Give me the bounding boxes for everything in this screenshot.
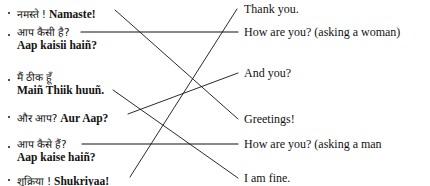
hindi-phrase-body: आप कैसी है?Aap kaisii haiñ? <box>8 26 97 53</box>
english-meaning-item-thank-you[interactable]: Thank you. <box>244 3 299 16</box>
devanagari-text: शुक्रिया ! <box>17 175 51 186</box>
english-meaning-item-and-you[interactable]: And you? <box>244 67 291 80</box>
romanized-text: Namaste! <box>49 8 96 20</box>
romanized-text: Aap kaise haiñ? <box>17 151 96 165</box>
devanagari-text: आप कैसी है? <box>17 26 97 39</box>
devanagari-text: नमस्ते ! <box>17 8 46 20</box>
hindi-phrase-body: आप कैसे हैं?Aap kaise haiñ? <box>8 138 96 165</box>
romanized-text: Aap kaisii haiñ? <box>17 39 97 53</box>
english-meaning-item-how-are-you-m[interactable]: How are you? (asking a man <box>244 138 382 151</box>
devanagari-text: मैं ठीक हूँ <box>17 71 104 84</box>
connector-line-namaste-to-greetings[interactable] <box>115 10 238 119</box>
matching-exercise-worksheet: नमस्ते !Namaste!आप कैसी है?Aap kaisii ha… <box>0 0 430 186</box>
hindi-phrase-item-aap-kaise-hain[interactable]: आप कैसे हैं?Aap kaise haiñ? <box>8 138 96 165</box>
hindi-phrase-item-main-thiik-huun[interactable]: मैं ठीक हूँMaiñ Thiik huuñ. <box>8 71 104 98</box>
english-meaning-item-how-are-you-f[interactable]: How are you? (asking a woman) <box>244 26 400 39</box>
devanagari-text: आप कैसे हैं? <box>17 138 96 151</box>
hindi-phrase-item-aap-kaisii-hain[interactable]: आप कैसी है?Aap kaisii haiñ? <box>8 26 97 53</box>
connector-line-shukriyaa-to-thank-you[interactable] <box>130 9 237 177</box>
hindi-phrase-body: शुक्रिया !Shukriyaa! <box>8 171 109 186</box>
romanized-text: Shukriyaa! <box>54 175 109 186</box>
romanized-text: Maiñ Thiik huuñ. <box>17 84 104 98</box>
hindi-phrase-item-aur-aap[interactable]: और आप?Aur Aap? <box>8 108 108 126</box>
english-meaning-item-i-am-fine[interactable]: I am fine. <box>244 172 290 185</box>
connector-line-aur-aap-to-and-you[interactable] <box>128 73 238 114</box>
hindi-phrase-body: मैं ठीक हूँMaiñ Thiik huuñ. <box>8 71 104 98</box>
english-meaning-item-greetings[interactable]: Greetings! <box>244 113 295 126</box>
devanagari-text: और आप? <box>17 112 57 124</box>
hindi-phrase-body: और आप?Aur Aap? <box>8 108 108 126</box>
connector-line-thiik-to-i-am-fine[interactable] <box>113 90 238 178</box>
hindi-phrase-item-shukriyaa[interactable]: शुक्रिया !Shukriyaa! <box>8 171 109 186</box>
hindi-phrase-body: नमस्ते !Namaste! <box>8 4 96 22</box>
hindi-phrase-item-namaste[interactable]: नमस्ते !Namaste! <box>8 4 96 22</box>
romanized-text: Aur Aap? <box>60 112 108 124</box>
